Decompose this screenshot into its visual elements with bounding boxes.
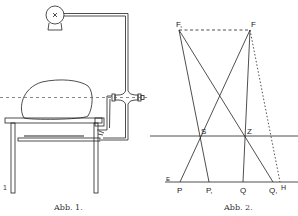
label-h: H: [281, 184, 286, 191]
ray-f-p: [180, 30, 250, 182]
label-z: Z: [247, 127, 252, 136]
ray-f-q: [243, 30, 250, 182]
label-f1: F,: [176, 20, 182, 29]
ray-f1-q1: [179, 30, 273, 182]
figure-2-caption: Abb. 2.: [224, 203, 253, 212]
label-q: Q: [240, 186, 246, 195]
label-s: S: [201, 127, 206, 136]
figure-2-construction: F, F S Z E P P, Q Q, H: [0, 0, 298, 216]
label-e: E: [166, 176, 170, 182]
label-p1: P,: [206, 186, 213, 195]
page: 1 Abb. 1. F, F S Z E P P, Q Q,: [0, 0, 298, 216]
label-q1: Q,: [269, 186, 277, 195]
ray-f-h-dotted: [250, 30, 280, 182]
label-p: P: [177, 186, 182, 195]
ray-f1-p1: [179, 30, 209, 182]
label-f: F: [251, 20, 256, 29]
